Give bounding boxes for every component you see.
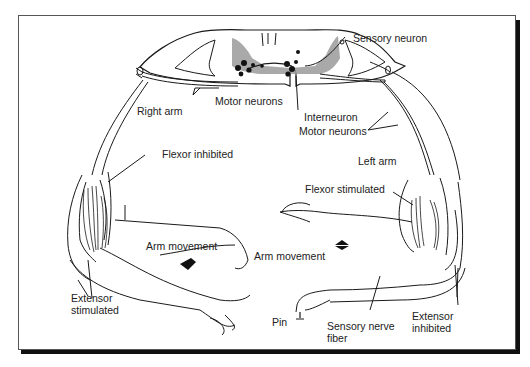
label-sensory-neuron: Sensory neuron <box>353 32 427 44</box>
label-extensor-inhibited: Extensor inhibited <box>412 310 462 334</box>
label-right-arm: Right arm <box>137 105 183 117</box>
label-extensor-stimulated: Extensor stimulated <box>71 292 131 316</box>
left-arm-drawing <box>280 178 465 319</box>
label-arm-movement-left: Arm movement <box>146 240 217 252</box>
label-flexor-stimulated: Flexor stimulated <box>305 183 385 195</box>
label-sensory-nerve-fiber: Sensory nerve fiber <box>327 320 397 344</box>
label-flexor-inhibited: Flexor inhibited <box>162 148 233 160</box>
label-motor-neurons-right: Motor neurons <box>299 125 367 137</box>
arm-movement-arrow-left <box>180 258 196 270</box>
label-arm-movement-right: Arm movement <box>254 250 325 262</box>
label-pin: Pin <box>272 316 287 328</box>
arm-movement-arrow-right <box>335 240 349 250</box>
label-interneuron: Interneuron <box>304 111 358 123</box>
label-motor-neurons-left: Motor neurons <box>215 95 283 107</box>
label-left-arm: Left arm <box>358 155 397 167</box>
